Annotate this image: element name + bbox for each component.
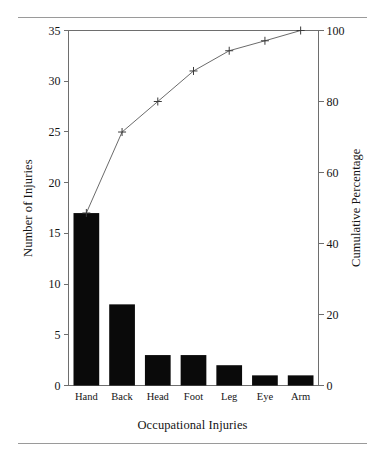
y-axis-right-tick-label: 80 [327,95,339,109]
bar[interactable] [145,355,171,385]
x-axis-category-label: Arm [291,391,310,402]
x-axis-category-label: Back [111,391,133,402]
y-axis-right-title: Cumulative Percentage [349,149,364,267]
y-axis-left-tick-label: 20 [49,176,61,190]
y-axis-right-tick-label: 100 [327,24,345,38]
y-axis-left-tick-label: 5 [55,328,61,342]
y-axis-left-tick-label: 0 [55,379,61,393]
x-axis-category-label: Foot [184,391,203,402]
y-axis-right-tick-label: 0 [327,379,333,393]
bar[interactable] [181,355,207,385]
x-axis-category-label: Leg [221,391,238,402]
bar[interactable] [109,304,135,385]
x-axis-category-label: Eye [257,391,274,402]
cumulative-percentage-line [86,31,300,213]
x-axis-category-label: Hand [75,391,98,402]
y-axis-right-tick-label: 60 [327,166,339,180]
y-axis-left-tick-label: 15 [49,226,61,240]
y-axis-left-tick-label: 35 [49,24,61,38]
y-axis-right-tick-label: 20 [327,308,339,322]
bar[interactable] [216,365,242,385]
bar[interactable] [74,213,100,385]
y-axis-left-title: Number of Injuries [21,159,36,257]
chart-plot-area: 05101520253035020406080100HandBackHeadFo… [0,0,385,462]
pareto-chart-figure: 05101520253035020406080100HandBackHeadFo… [0,0,385,462]
x-axis-category-label: Head [147,391,170,402]
y-axis-left-tick-label: 10 [49,277,61,291]
y-axis-right-tick-label: 40 [327,237,339,251]
y-axis-left-tick-label: 25 [49,125,61,139]
plot-frame [69,31,319,386]
y-axis-left-tick-label: 30 [49,74,61,88]
x-axis-title: Occupational Injuries [0,418,385,433]
bar[interactable] [252,375,278,385]
bar[interactable] [288,375,314,385]
